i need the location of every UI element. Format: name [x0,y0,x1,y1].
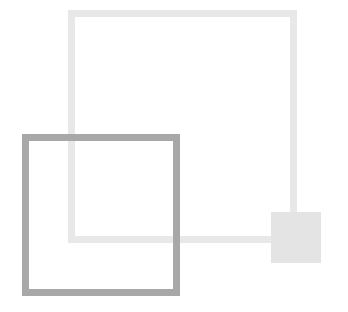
small-filled-square [271,212,321,263]
dark-outlined-square [22,134,180,296]
